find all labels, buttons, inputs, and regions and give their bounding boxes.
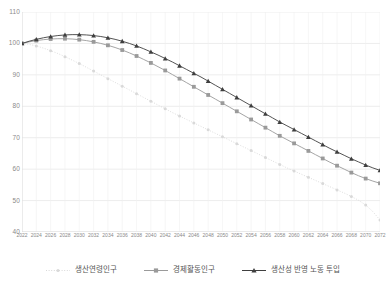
x-tick-label: 2042 xyxy=(160,233,171,238)
y-tick-label: 50 xyxy=(0,198,20,205)
x-tick-label: 2030 xyxy=(74,233,85,238)
y-tick-label: 60 xyxy=(0,166,20,173)
x-tick-label: 2048 xyxy=(203,233,214,238)
x-tick-label: 2052 xyxy=(231,233,242,238)
y-tick-label: 70 xyxy=(0,135,20,142)
legend-marker-1 xyxy=(143,266,169,275)
x-tick-label: 2044 xyxy=(174,233,185,238)
x-tick-label: 2068 xyxy=(346,233,357,238)
x-tick-label: 2054 xyxy=(246,233,257,238)
x-tick-label: 2024 xyxy=(31,233,42,238)
x-axis: 2022202420262028203020322034203620382040… xyxy=(22,233,380,245)
x-tick-label: 2072 xyxy=(374,233,385,238)
y-axis: 405060708090100110 xyxy=(0,0,20,232)
x-tick-label: 2066 xyxy=(331,233,342,238)
x-tick-label: 2062 xyxy=(303,233,314,238)
legend-marker-2 xyxy=(241,266,267,275)
y-tick-label: 100 xyxy=(0,40,20,47)
x-tick-label: 2032 xyxy=(88,233,99,238)
x-tick-label: 2026 xyxy=(45,233,56,238)
y-tick-label: 90 xyxy=(0,72,20,79)
x-tick-label: 2056 xyxy=(260,233,271,238)
legend-item-2: 생산성 반영 노동 투입 xyxy=(241,266,340,275)
x-tick-label: 2064 xyxy=(317,233,328,238)
x-tick-label: 2046 xyxy=(188,233,199,238)
legend-item-1: 경제활동인구 xyxy=(143,266,215,275)
x-tick-label: 2038 xyxy=(131,233,142,238)
legend-label-2: 생산성 반영 노동 투입 xyxy=(271,266,340,274)
x-tick-label: 2040 xyxy=(145,233,156,238)
legend-marker-0 xyxy=(45,266,71,275)
x-tick-label: 2028 xyxy=(59,233,70,238)
x-tick-label: 2036 xyxy=(117,233,128,238)
legend-item-0: 생산연령인구 xyxy=(45,266,117,275)
x-tick-label: 2022 xyxy=(16,233,27,238)
series-layer xyxy=(22,12,380,232)
legend-label-0: 생산연령인구 xyxy=(75,266,117,274)
x-tick-label: 2070 xyxy=(360,233,371,238)
y-tick-label: 110 xyxy=(0,9,20,16)
x-tick-label: 2058 xyxy=(274,233,285,238)
x-tick-label: 2050 xyxy=(217,233,228,238)
x-tick-label: 2034 xyxy=(102,233,113,238)
y-tick-label: 80 xyxy=(0,103,20,110)
chart-legend: 생산연령인구 경제활동인구 생산성 반영 노동 투입 xyxy=(0,262,385,278)
x-tick-label: 2060 xyxy=(289,233,300,238)
plot-area xyxy=(22,12,380,232)
legend-label-1: 경제활동인구 xyxy=(173,266,215,274)
